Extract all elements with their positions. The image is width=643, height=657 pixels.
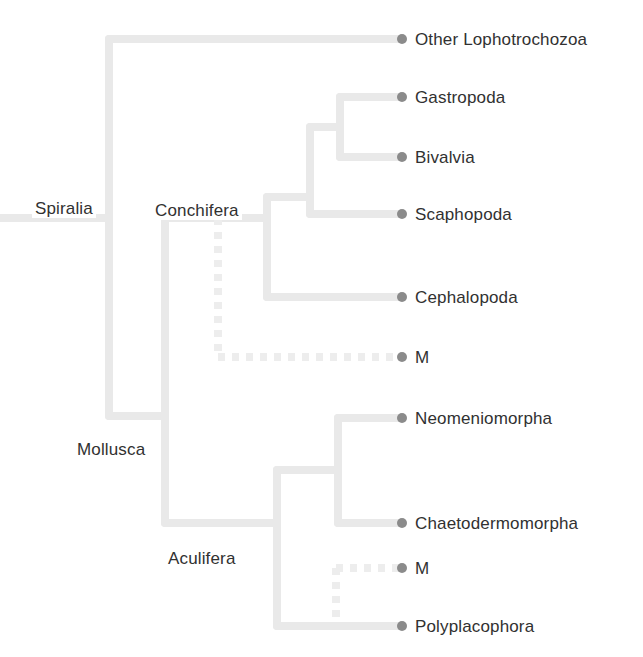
clade-label-mollusca: Mollusca xyxy=(74,440,148,459)
tip-dot-monoplacophora-lower xyxy=(397,563,407,573)
tip-dot-other-lophotrochozoa xyxy=(397,34,407,44)
clade-label-aculifera: Aculifera xyxy=(165,549,239,568)
tip-dot-scaphopoda xyxy=(397,209,407,219)
tip-dot-layer xyxy=(397,34,407,631)
tip-label-gastropoda: Gastropoda xyxy=(415,89,505,106)
tip-label-bivalvia: Bivalvia xyxy=(415,149,475,166)
tip-dot-polyplacophora xyxy=(397,621,407,631)
tip-dot-monoplacophora-upper xyxy=(397,352,407,362)
tip-label-cephalopoda: Cephalopoda xyxy=(415,289,518,306)
tip-label-monoplacophora-lower: M xyxy=(415,560,429,577)
tip-dot-neomeniomorpha xyxy=(397,413,407,423)
tip-label-chaetodermomorpha: Chaetodermomorpha xyxy=(415,515,578,532)
tip-dot-bivalvia xyxy=(397,152,407,162)
branch-layer xyxy=(0,39,402,626)
tip-dot-cephalopoda xyxy=(397,292,407,302)
tip-label-neomeniomorpha: Neomeniomorpha xyxy=(415,410,552,427)
tip-dot-chaetodermomorpha xyxy=(397,518,407,528)
tip-dot-gastropoda xyxy=(397,92,407,102)
tip-label-monoplacophora-upper: M xyxy=(415,349,429,366)
tip-label-other-lophotrochozoa: Other Lophotrochozoa xyxy=(415,31,587,48)
clade-label-spiralia: Spiralia xyxy=(32,199,96,218)
clade-label-conchifera: Conchifera xyxy=(152,201,242,220)
phylogenetic-tree-figure: Other LophotrochozoaGastropodaBivalviaSc… xyxy=(0,0,643,657)
tree-branch-canvas xyxy=(0,0,643,657)
tip-label-polyplacophora: Polyplacophora xyxy=(415,618,534,635)
tip-label-scaphopoda: Scaphopoda xyxy=(415,206,512,223)
